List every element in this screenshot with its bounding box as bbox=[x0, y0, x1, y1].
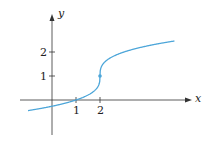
x-tick-label-2: 2 bbox=[97, 105, 104, 116]
x-axis-label: x bbox=[195, 93, 201, 104]
chart-canvas bbox=[0, 0, 210, 145]
x-tick-label-1: 1 bbox=[73, 105, 80, 116]
y-tick-label-2: 2 bbox=[40, 47, 47, 58]
y-axis-arrow-icon bbox=[50, 14, 55, 21]
x-axis-arrow-icon bbox=[185, 98, 192, 103]
y-axis-label: y bbox=[58, 8, 64, 19]
y-tick-label-1: 1 bbox=[40, 71, 47, 82]
highlight-point bbox=[98, 74, 102, 78]
